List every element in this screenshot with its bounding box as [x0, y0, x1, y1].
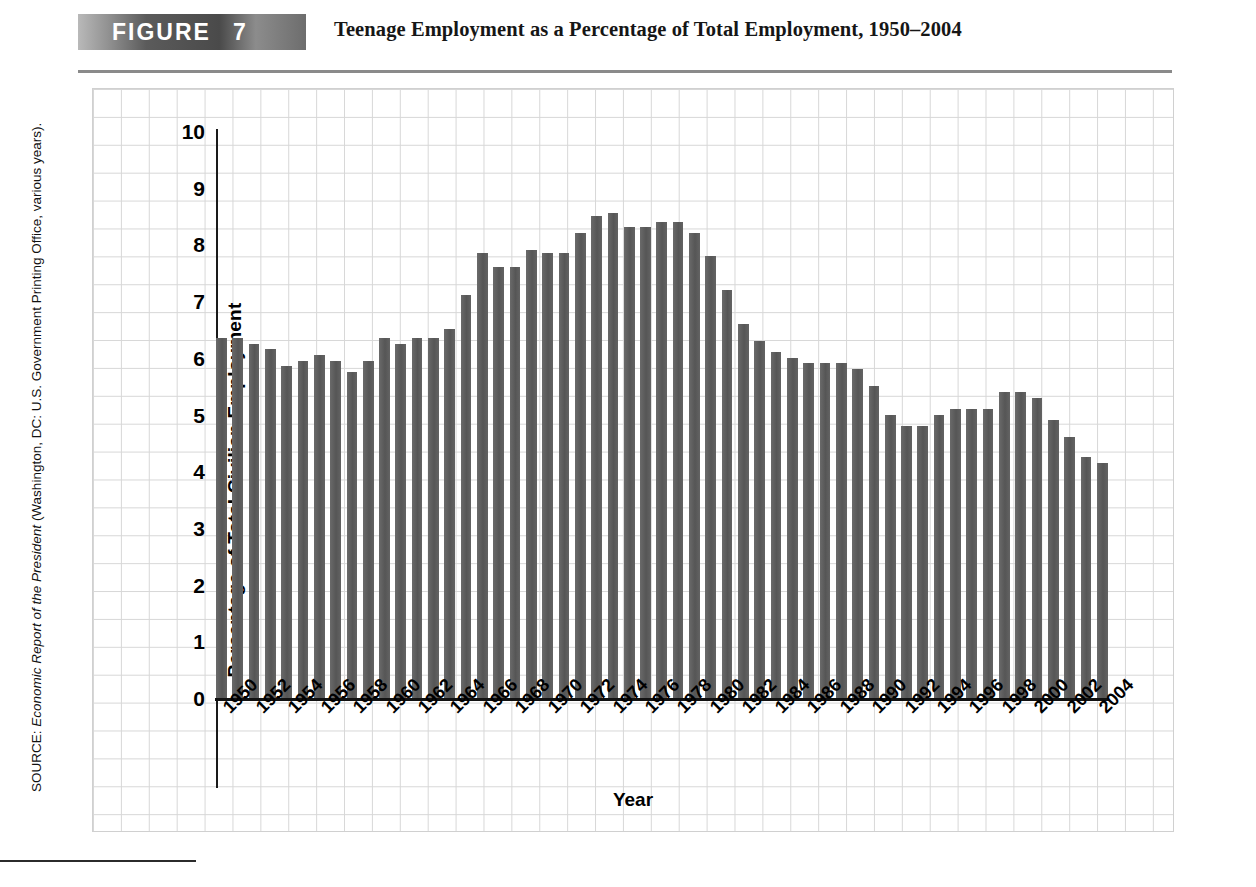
bar-1954	[281, 366, 292, 698]
bar-1985	[787, 358, 798, 698]
bar-1982	[738, 324, 749, 698]
bar-1958	[347, 372, 358, 698]
bar-1964	[444, 329, 455, 698]
header-divider	[78, 70, 1172, 73]
bar-1951	[232, 338, 243, 698]
x-axis-title: Year	[93, 789, 1173, 811]
y-tick-7: 7	[193, 291, 205, 312]
bar-series	[216, 131, 1108, 698]
y-tick-3: 3	[193, 517, 205, 538]
bar-1961	[395, 344, 406, 698]
bar-1992	[901, 426, 912, 698]
bar-2002	[1064, 437, 1075, 698]
bar-1973	[591, 216, 602, 698]
y-tick-4: 4	[193, 461, 205, 482]
bar-1950	[216, 338, 227, 698]
bar-1971	[559, 253, 570, 698]
bar-2003	[1081, 457, 1092, 698]
y-tick-6: 6	[193, 347, 205, 368]
y-tick-5: 5	[193, 404, 205, 425]
figure-label: FIGURE	[112, 19, 211, 46]
bar-1967	[493, 267, 504, 698]
y-tick-10: 10	[182, 121, 205, 142]
bar-1987	[820, 363, 831, 698]
bar-2004	[1097, 463, 1108, 698]
bar-1979	[689, 233, 700, 698]
bar-1966	[477, 253, 488, 698]
bar-1952	[249, 344, 260, 698]
bar-1953	[265, 349, 276, 698]
bar-1969	[526, 250, 537, 698]
bar-1963	[428, 338, 439, 698]
y-tick-9: 9	[193, 177, 205, 198]
source-note: SOURCE: Economic Report of the President…	[28, 52, 45, 792]
chart-area: 012345678910	[216, 131, 1108, 698]
bar-1983	[754, 341, 765, 698]
x-axis-ticks: 1950195219541956195819601962196419661968…	[216, 703, 1108, 799]
bar-1956	[314, 355, 325, 698]
footer-divider	[0, 860, 196, 862]
bar-2000	[1032, 398, 1043, 699]
bar-1989	[852, 369, 863, 698]
bar-1968	[510, 267, 521, 698]
bar-1990	[869, 386, 880, 698]
source-prefix: SOURCE:	[29, 727, 44, 792]
bar-1965	[461, 295, 472, 698]
y-tick-2: 2	[193, 574, 205, 595]
y-tick-0: 0	[193, 688, 205, 709]
source-note-wrapper: SOURCE: Economic Report of the President…	[28, 52, 72, 792]
bar-1996	[966, 409, 977, 698]
bar-1960	[379, 338, 390, 698]
bar-1974	[608, 213, 619, 698]
bar-2001	[1048, 420, 1059, 698]
bar-1981	[722, 290, 733, 698]
bar-1994	[934, 415, 945, 699]
bar-1980	[705, 256, 716, 698]
bar-1955	[298, 361, 309, 698]
bar-1998	[999, 392, 1010, 698]
bar-1959	[363, 361, 374, 698]
bar-1976	[640, 227, 651, 698]
figure-header: FIGURE 7 Teenage Employment as a Percent…	[0, 0, 1256, 70]
bar-1988	[836, 363, 847, 698]
page-title: Teenage Employment as a Percentage of To…	[334, 18, 962, 41]
source-title-italic: Economic Report of the President	[29, 525, 44, 727]
y-tick-8: 8	[193, 234, 205, 255]
bar-1972	[575, 233, 586, 698]
bar-1962	[412, 338, 423, 698]
bar-1993	[917, 426, 928, 698]
bar-1978	[673, 222, 684, 698]
chart-plot-frame: Percentage of Total Civilian Employment …	[92, 88, 1174, 832]
bar-1997	[983, 409, 994, 698]
bar-1999	[1015, 392, 1026, 698]
bar-1984	[771, 352, 782, 698]
bar-1975	[624, 227, 635, 698]
bar-1995	[950, 409, 961, 698]
figure-number: 7	[233, 19, 246, 46]
bar-1957	[330, 361, 341, 698]
bar-1986	[803, 363, 814, 698]
source-suffix: (Washington, DC: U.S. Government Printin…	[29, 123, 44, 525]
figure-number-band: FIGURE 7	[78, 14, 306, 50]
bar-1977	[656, 222, 667, 698]
bar-1970	[542, 253, 553, 698]
y-tick-1: 1	[193, 631, 205, 652]
bar-1991	[885, 415, 896, 699]
